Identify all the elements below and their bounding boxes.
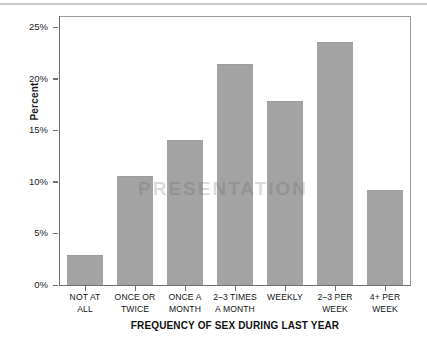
bar-slot <box>117 17 153 285</box>
y-tick-label: 5% <box>0 227 48 238</box>
x-tick-label: 2–3 TIMES A MONTH <box>210 292 260 315</box>
x-tick-label: ONCE OR TWICE <box>110 292 160 315</box>
x-tick-mark <box>285 286 286 291</box>
bar <box>217 64 253 285</box>
bar <box>167 140 203 285</box>
y-tick-label: 10% <box>0 176 48 187</box>
x-tick-label: 2–3 PER WEEK <box>310 292 360 315</box>
y-axis-title: Percent <box>29 42 40 162</box>
x-tick-mark <box>135 286 136 291</box>
bar-slot <box>317 17 353 285</box>
chart-figure: Percent 0%5%10%15%20%25% NOT AT ALLONCE … <box>0 0 427 341</box>
x-tick-mark <box>185 286 186 291</box>
x-axis-title: FREQUENCY OF SEX DURING LAST YEAR <box>59 320 411 331</box>
x-tick-label: ONCE A MONTH <box>160 292 210 315</box>
bar-slot <box>267 17 303 285</box>
bar-slot <box>367 17 403 285</box>
y-tick-mark <box>53 27 58 28</box>
bar-slot <box>167 17 203 285</box>
y-tick-mark <box>53 285 58 286</box>
x-tick-mark <box>385 286 386 291</box>
y-tick-mark <box>53 233 58 234</box>
bar <box>117 176 153 285</box>
x-tick-mark <box>235 286 236 291</box>
bar <box>317 42 353 285</box>
y-tick-mark <box>53 130 58 131</box>
bar <box>267 101 303 286</box>
y-tick-label: 0% <box>0 279 48 290</box>
bar <box>367 190 403 285</box>
y-tick-label: 15% <box>0 124 48 135</box>
x-tick-label: WEEKLY <box>260 292 310 304</box>
y-tick-label: 25% <box>0 21 48 32</box>
y-tick-label: 20% <box>0 73 48 84</box>
x-tick-label: NOT AT ALL <box>60 292 110 315</box>
bar-slot <box>217 17 253 285</box>
y-tick-mark <box>53 181 58 182</box>
x-tick-mark <box>335 286 336 291</box>
y-tick-mark <box>53 78 58 79</box>
x-tick-mark <box>85 286 86 291</box>
bar-series <box>60 17 410 285</box>
bar <box>67 255 103 285</box>
top-divider-rule <box>0 3 427 5</box>
bar-slot <box>67 17 103 285</box>
x-tick-label: 4+ PER WEEK <box>360 292 410 315</box>
